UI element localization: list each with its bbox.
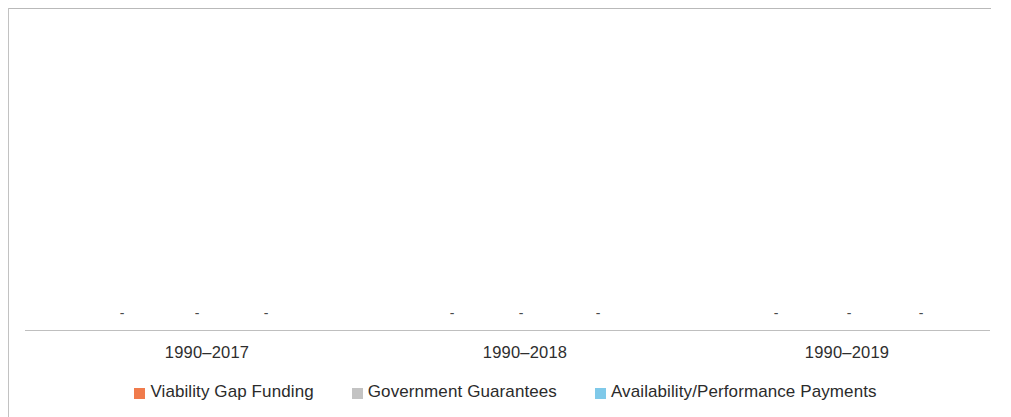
chart-legend: Viability Gap FundingGovernment Guarante… — [0, 381, 1011, 403]
bar-data-label: - — [909, 305, 933, 321]
legend-item[interactable]: Viability Gap Funding — [134, 381, 313, 403]
bar-data-label: - — [185, 305, 209, 321]
bar-data-label: - — [837, 305, 861, 321]
chart-figure: --------- 1990–20171990–20181990–2019 Vi… — [0, 0, 1011, 417]
legend-item-label: Viability Gap Funding — [150, 381, 313, 403]
legend-item[interactable]: Government Guarantees — [352, 381, 557, 403]
figure-frame-top-rule — [8, 8, 991, 9]
bar-data-label: - — [509, 305, 533, 321]
figure-frame-left-rule — [8, 8, 9, 417]
legend-item[interactable]: Availability/Performance Payments — [595, 381, 877, 403]
bar-data-label: - — [110, 305, 134, 321]
legend-item-label: Government Guarantees — [368, 381, 557, 403]
bar-data-label: - — [440, 305, 464, 321]
legend-swatch-icon — [595, 388, 606, 399]
legend-swatch-icon — [134, 388, 145, 399]
x-axis-tick-label: 1990–2017 — [77, 341, 337, 363]
legend-swatch-icon — [352, 388, 363, 399]
x-axis-line — [25, 330, 990, 331]
bar-data-label: - — [586, 305, 610, 321]
bar-data-label: - — [764, 305, 788, 321]
x-axis-tick-label: 1990–2019 — [717, 341, 977, 363]
bar-data-label: - — [254, 305, 278, 321]
legend-item-label: Availability/Performance Payments — [611, 381, 877, 403]
x-axis-tick-label: 1990–2018 — [395, 341, 655, 363]
plot-area — [25, 12, 990, 330]
